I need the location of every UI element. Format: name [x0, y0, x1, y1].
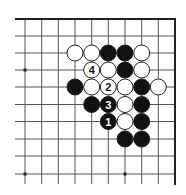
black-stone [134, 97, 150, 113]
white-stone-disc [84, 45, 100, 61]
black-stone-disc [134, 114, 150, 130]
go-board: 4231 [0, 0, 186, 195]
black-stone-disc [117, 62, 133, 78]
black-stone [134, 114, 150, 130]
black-stone: 3 [100, 97, 116, 113]
white-stone [84, 79, 100, 95]
black-stone-disc [117, 45, 133, 61]
white-stone-disc [134, 62, 150, 78]
move-number-label: 3 [105, 99, 111, 111]
black-stone: 1 [100, 114, 116, 130]
white-stone [100, 62, 116, 78]
black-stone-disc [100, 45, 116, 61]
black-stone [100, 45, 116, 61]
white-stone: 2 [100, 79, 116, 95]
move-number-label: 2 [105, 81, 111, 93]
white-stone-disc [100, 62, 116, 78]
move-number-label: 1 [105, 116, 111, 128]
star-point [124, 173, 127, 176]
white-stone-disc [134, 45, 150, 61]
black-stone-disc [117, 131, 133, 147]
black-stone-disc [134, 79, 150, 95]
white-stone [134, 62, 150, 78]
stones: 4231 [67, 45, 166, 147]
white-stone [150, 79, 166, 95]
black-stone [134, 131, 150, 147]
white-stone [67, 45, 83, 61]
black-stone-disc [134, 131, 150, 147]
white-stone [117, 79, 133, 95]
white-stone [84, 45, 100, 61]
star-point [24, 69, 27, 72]
black-stone-disc [84, 97, 100, 113]
black-stone [117, 45, 133, 61]
black-stone [67, 79, 83, 95]
white-stone-disc [117, 79, 133, 95]
black-stone [117, 131, 133, 147]
star-point [24, 173, 27, 176]
black-stone-disc [67, 79, 83, 95]
white-stone-disc [67, 45, 83, 61]
black-stone [134, 79, 150, 95]
white-stone: 4 [84, 62, 100, 78]
black-stone-disc [134, 97, 150, 113]
white-stone-disc [150, 79, 166, 95]
white-stone [134, 45, 150, 61]
black-stone [84, 97, 100, 113]
white-stone-disc [117, 97, 133, 113]
white-stone-disc [84, 79, 100, 95]
move-number-label: 4 [89, 64, 96, 76]
white-stone-disc [117, 114, 133, 130]
white-stone [117, 97, 133, 113]
white-stone [117, 114, 133, 130]
black-stone [117, 62, 133, 78]
